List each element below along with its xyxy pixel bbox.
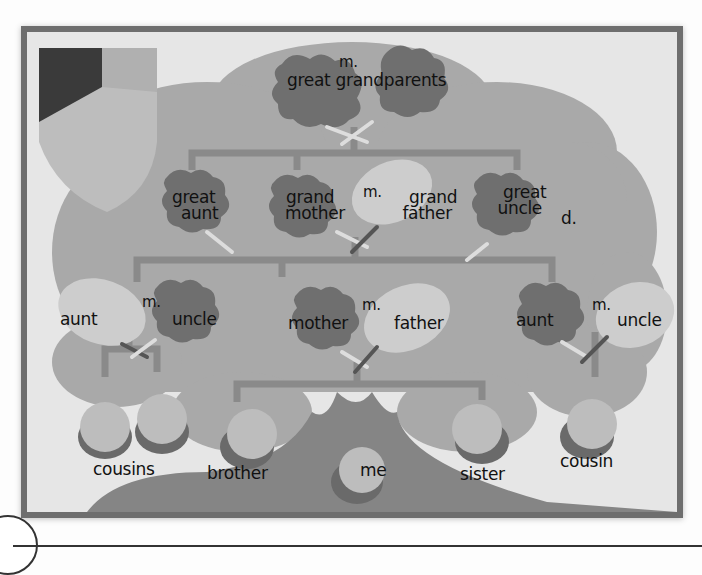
marriage-label: m. bbox=[592, 297, 611, 313]
marriage-label: m. bbox=[142, 294, 161, 310]
divider-line bbox=[13, 545, 702, 547]
aunt-label: aunt bbox=[60, 311, 97, 327]
cousins-label: cousins bbox=[93, 461, 155, 477]
marriage-label: m. bbox=[363, 184, 382, 200]
grandfather-label: grand father bbox=[397, 189, 457, 221]
sister-label: sister bbox=[460, 466, 505, 482]
marriage-label: m. bbox=[362, 297, 381, 313]
grandmother-label: grand mother bbox=[275, 189, 345, 221]
tree-panel: m. great grandparents great aunt grand m… bbox=[27, 32, 677, 512]
uncle-label: uncle bbox=[617, 312, 662, 328]
uncle-label: uncle bbox=[172, 311, 217, 327]
picture-frame: m. great grandparents great aunt grand m… bbox=[21, 26, 683, 518]
aunt-label: aunt bbox=[516, 312, 553, 328]
great-uncle-label: great uncle bbox=[493, 184, 546, 216]
shield bbox=[39, 48, 157, 212]
great-grandparents-label: great grandparents bbox=[287, 72, 446, 88]
great-aunt-label: great aunt bbox=[169, 189, 218, 221]
mother-label: mother bbox=[288, 315, 348, 331]
father-label: father bbox=[394, 315, 444, 331]
deceased-label: d. bbox=[561, 210, 577, 226]
tree-illustration bbox=[27, 32, 677, 512]
marriage-label: m. bbox=[339, 54, 358, 70]
brother-label: brother bbox=[207, 465, 268, 481]
me-label: me bbox=[360, 462, 386, 478]
cousin-label: cousin bbox=[560, 453, 613, 469]
